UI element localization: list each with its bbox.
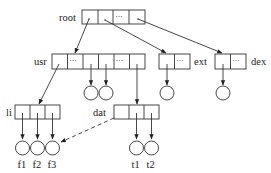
t2-label: t2 <box>147 159 155 170</box>
f3-circle <box>46 141 60 155</box>
dex-label: dex <box>251 56 267 67</box>
dex-ellipsis: ··· <box>232 55 240 65</box>
dat-label: dat <box>93 107 106 118</box>
t1-circle <box>130 141 144 155</box>
li-label: li <box>6 107 12 118</box>
usr-leaf-1-circle <box>84 86 98 100</box>
f3-label: f3 <box>48 159 57 170</box>
usr-ellipsis-1: ··· <box>69 55 77 65</box>
directory-tree-diagram: root ··· usr ··· ··· ··· ext ··· dex li <box>0 0 271 173</box>
root-node: root ··· <box>59 10 145 24</box>
usr-ellipsis-2: ··· <box>116 55 124 65</box>
dex-leaf-circle <box>216 86 230 100</box>
usr-node: usr ··· ··· <box>34 54 145 69</box>
t2-circle <box>145 141 159 155</box>
usr-label: usr <box>34 56 47 67</box>
f2-label: f2 <box>33 159 42 170</box>
f1-circle <box>16 141 30 155</box>
li-node: li <box>6 105 60 119</box>
ext-node: ··· ext <box>159 54 207 69</box>
edge-root-dex <box>138 19 222 53</box>
dat-node: dat <box>93 105 159 119</box>
t1-label: t1 <box>132 159 140 170</box>
ext-ellipsis: ··· <box>176 55 184 65</box>
edge-root-ext <box>105 20 166 53</box>
edge-usr-li <box>39 64 59 104</box>
ext-label: ext <box>194 56 207 67</box>
f2-circle <box>31 141 45 155</box>
root-box <box>82 10 145 24</box>
edge-dat-f3-link <box>61 118 114 142</box>
ext-leaf-circle <box>160 86 174 100</box>
root-ellipsis: ··· <box>115 11 123 21</box>
root-label: root <box>59 12 76 23</box>
f1-label: f1 <box>18 159 27 170</box>
usr-leaf-2-circle <box>99 86 113 100</box>
